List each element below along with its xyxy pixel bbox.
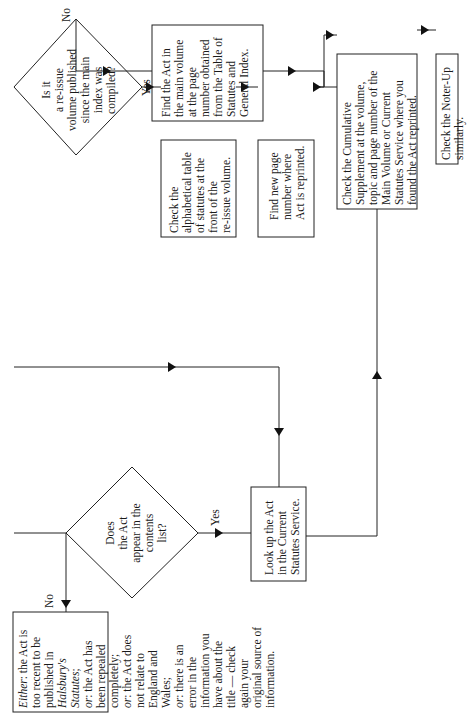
edge-label-contents-yes: Yes (209, 509, 221, 526)
box-check-cumulative-text: Check the Cumulative Supplement at the v… (341, 53, 419, 205)
box-lookup-current-text: Look up the Act in the Current Statutes … (263, 487, 302, 575)
box-check-alpha-text: Check the alphabetical table of statutes… (168, 141, 233, 233)
decision-reissue-text: Is it a re-issue volume published since … (40, 30, 118, 150)
decision-contents-text: Does the Act appear in the contents list… (104, 493, 169, 573)
edge-label-reissue-yes: Yes (140, 79, 152, 96)
box-check-noter-text: Check the Noter-Up similarly. (440, 52, 466, 160)
edge-label-reissue-no: No (60, 8, 72, 22)
box-find-main-text: Find the Act in the main volume at the p… (160, 25, 251, 117)
box-either-text: Either: the Act is too recent to be publ… (17, 600, 277, 708)
box-find-new-page-text: Find new page number where Act is reprin… (268, 140, 307, 220)
